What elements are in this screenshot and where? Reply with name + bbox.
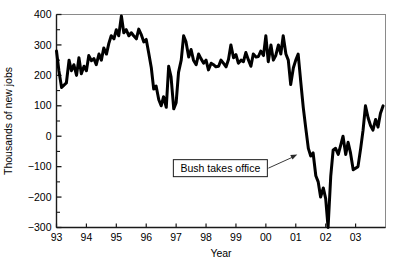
y-tick-label: 300 xyxy=(34,39,52,51)
y-tick-label: 100 xyxy=(34,99,52,111)
x-tick-label: 01 xyxy=(290,231,302,243)
y-tick-label: −300 xyxy=(28,221,52,233)
x-tick-label: 02 xyxy=(320,231,332,243)
x-axis-title: Year xyxy=(210,247,232,259)
y-tick-label: 400 xyxy=(34,8,52,20)
x-tick-label: 00 xyxy=(260,231,272,243)
x-tick-label: 96 xyxy=(140,231,152,243)
x-tick-label: 95 xyxy=(110,231,122,243)
x-tick-label: 99 xyxy=(230,231,242,243)
y-tick-label: 0 xyxy=(46,130,52,142)
y-axis-title: Thousands of new jobs xyxy=(2,67,14,175)
y-tick-label: −100 xyxy=(28,160,52,172)
y-tick-label: 200 xyxy=(34,69,52,81)
y-tick-label: −200 xyxy=(28,191,52,203)
x-tick-label: 97 xyxy=(170,231,182,243)
chart-container: 4003002001000−100−200−300 93949596979899… xyxy=(0,0,399,267)
x-tick-label: 94 xyxy=(81,231,93,243)
annotation-label: Bush takes office xyxy=(180,162,260,174)
x-tick-label: 98 xyxy=(200,231,212,243)
x-tick-label: 03 xyxy=(350,231,362,243)
jobs-line-chart: 4003002001000−100−200−300 93949596979899… xyxy=(0,0,399,267)
x-tick-label: 93 xyxy=(51,231,63,243)
